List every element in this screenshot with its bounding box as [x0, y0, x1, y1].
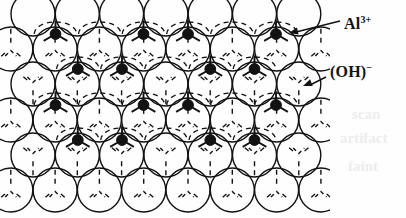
hidden-bond-arm: [147, 51, 153, 56]
hidden-bond-chevron: [49, 50, 60, 56]
hidden-bond-chevron: [27, 148, 38, 154]
aluminum-ion-dot: [138, 29, 149, 40]
hidden-octahedron-marker: [156, 77, 175, 105]
hidden-bond-arm: [14, 192, 20, 197]
hidden-bond-arm: [324, 51, 330, 56]
hidden-octahedron-marker: [289, 77, 308, 105]
hidden-bond-chevron: [249, 77, 260, 83]
hidden-bond-arm: [280, 122, 286, 127]
hidden-bond-arm: [81, 77, 87, 82]
hidden-octahedron-marker: [112, 148, 131, 176]
hidden-bond-chevron: [94, 50, 105, 56]
hidden-bond-arm: [169, 148, 175, 153]
oh-leader-arrowhead: [303, 79, 313, 86]
hidden-bond-arm: [147, 192, 153, 197]
hidden-bond-arm: [214, 148, 220, 153]
hidden-octahedron-marker: [23, 77, 42, 105]
hidden-bond-chevron: [271, 191, 282, 197]
hidden-octahedron-marker: [68, 148, 87, 176]
hidden-octahedron-marker: [112, 77, 131, 105]
bleed-text: faint: [348, 158, 378, 175]
hidden-octahedron-marker: [1, 170, 20, 198]
label-hydroxyl-ion: (OH)−: [330, 62, 372, 81]
hidden-bond-chevron: [293, 148, 304, 154]
hidden-bond-chevron: [315, 121, 326, 127]
hidden-bond-chevron: [49, 191, 60, 197]
hidden-bond-chevron: [138, 50, 149, 56]
aluminum-ion-dot: [271, 100, 282, 111]
hidden-bond-arm: [14, 51, 20, 56]
hidden-bond-arm: [191, 51, 197, 56]
hidden-octahedron-marker: [245, 77, 264, 105]
hidden-bond-arm: [236, 192, 242, 197]
aluminum-ion-dot: [271, 29, 282, 40]
aluminum-ion-dot: [72, 64, 83, 75]
al-leader-arrowhead: [289, 27, 299, 34]
aluminum-ion-dot: [117, 64, 128, 75]
hidden-bond-arm: [103, 51, 109, 56]
hidden-bond-arm: [103, 122, 109, 127]
hidden-bond-chevron: [138, 191, 149, 197]
hidden-bond-chevron: [227, 50, 238, 56]
hidden-octahedron-marker: [289, 148, 308, 176]
hidden-octahedron-marker: [68, 77, 87, 105]
hidden-octahedron-marker: [1, 100, 20, 128]
hidden-bond-chevron: [271, 50, 282, 56]
hidden-octahedron-marker: [245, 148, 264, 176]
hidden-bond-arm: [36, 148, 42, 153]
hidden-bond-arm: [58, 192, 64, 197]
hidden-octahedron-marker: [90, 170, 109, 198]
bleed-text: scan: [352, 106, 380, 123]
hydroxyl-ion-circle: [55, 0, 99, 36]
hidden-bond-arm: [36, 77, 42, 82]
hidden-octahedron-marker: [90, 100, 109, 128]
oh-leader-line: [310, 77, 326, 85]
hidden-bond-chevron: [182, 50, 193, 56]
hydroxyl-ion-circle: [100, 0, 144, 36]
hidden-octahedron-marker: [223, 170, 242, 198]
hidden-bond-arm: [169, 77, 175, 82]
hidden-bond-chevron: [72, 148, 83, 154]
aluminum-ion-dot: [183, 100, 194, 111]
hidden-bond-chevron: [72, 77, 83, 83]
hydroxyl-ion-circle: [11, 0, 55, 36]
hidden-bond-chevron: [271, 121, 282, 127]
aluminum-ion-dot: [117, 135, 128, 146]
hidden-bond-chevron: [205, 77, 216, 83]
label-hydroxyl-charge: −: [366, 62, 372, 73]
hidden-bond-chevron: [227, 191, 238, 197]
hidden-bond-chevron: [116, 148, 127, 154]
hidden-bond-arm: [236, 51, 242, 56]
label-aluminum-text: Al: [344, 15, 360, 32]
hidden-bond-arm: [302, 148, 308, 153]
hidden-octahedron-marker: [311, 100, 330, 128]
hidden-bond-arm: [324, 122, 330, 127]
hidden-bond-chevron: [94, 191, 105, 197]
hidden-bond-arm: [147, 122, 153, 127]
hidden-octahedron-marker: [90, 29, 109, 57]
hidden-bond-arm: [103, 192, 109, 197]
aluminum-ion-dot: [205, 135, 216, 146]
hidden-bond-chevron: [249, 148, 260, 154]
hidden-octahedron-marker: [223, 100, 242, 128]
hidden-bond-arm: [302, 77, 308, 82]
hidden-bond-arm: [280, 51, 286, 56]
hidden-bond-chevron: [5, 191, 16, 197]
gibbsite-structure-figure: Al3+ (OH)− scanartifactfaint: [0, 0, 406, 218]
hidden-bond-chevron: [138, 121, 149, 127]
hydroxyl-ion-circle: [188, 0, 232, 36]
aluminum-ion-dot: [72, 135, 83, 146]
hidden-bond-chevron: [205, 148, 216, 154]
hidden-octahedron-marker: [1, 29, 20, 57]
hidden-bond-chevron: [293, 77, 304, 83]
hidden-bond-arm: [214, 77, 220, 82]
hidden-octahedron-marker: [201, 148, 220, 176]
bleed-text: artifact: [340, 130, 387, 147]
hidden-octahedron-marker: [311, 170, 330, 198]
label-aluminum-ion: Al3+: [344, 14, 372, 33]
aluminum-ion-dot: [249, 135, 260, 146]
aluminum-ion-dot: [205, 64, 216, 75]
label-hydroxyl-text: (OH): [330, 63, 366, 80]
hidden-bond-arm: [125, 77, 131, 82]
hidden-bond-chevron: [49, 121, 60, 127]
